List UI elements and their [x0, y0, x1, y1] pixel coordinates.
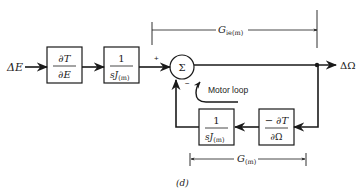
block-inv-sJ-forward: 1 sJ(m)	[104, 47, 139, 83]
bracket-bottom: G(m)	[190, 153, 306, 166]
input-label: ΔE	[6, 61, 23, 74]
minus-sign: −	[185, 79, 190, 88]
block-neg-dT-dOmega-denominator: ∂Ω	[270, 132, 282, 142]
svg-text:sJ(m): sJ(m)	[205, 132, 225, 144]
summing-junction: Σ	[170, 55, 194, 79]
figure-caption: (d)	[176, 178, 189, 188]
svg-text:sJ(m): sJ(m)	[110, 70, 130, 82]
sigma-symbol: Σ	[178, 62, 185, 73]
block-inv-sJ-forward-den-sub: (m)	[118, 74, 130, 82]
bracket-top-sub: ie(m)	[226, 29, 244, 37]
motor-loop-label: Motor loop	[208, 85, 248, 95]
block-neg-dT-dOmega: − ∂T ∂Ω	[259, 109, 294, 145]
svg-text:Gie(m): Gie(m)	[218, 24, 244, 37]
block-inv-sJ-forward-numerator: 1	[118, 53, 124, 64]
block-dT-dE-denominator: ∂E	[58, 69, 71, 80]
feedback-line-right	[294, 65, 318, 127]
bracket-bottom-sub: (m)	[245, 158, 257, 166]
svg-text:G(m): G(m)	[237, 153, 257, 166]
block-diagram: ΔE ∂T ∂E 1 sJ(m) + Σ − ΔΩ Gie(m)	[0, 0, 364, 196]
block-inv-sJ-feedback: 1 sJ(m)	[199, 109, 234, 145]
block-dT-dE: ∂T ∂E	[47, 47, 82, 83]
block-inv-sJ-feedback-den-sub: (m)	[213, 136, 225, 144]
output-label: ΔΩ	[340, 60, 356, 71]
bracket-top: Gie(m)	[152, 10, 317, 48]
block-inv-sJ-feedback-numerator: 1	[213, 115, 219, 126]
block-dT-dE-numerator: ∂T	[59, 53, 72, 64]
bracket-bottom-main: G	[237, 153, 245, 164]
block-neg-dT-dOmega-numerator: − ∂T	[265, 115, 290, 126]
plus-sign: +	[154, 54, 159, 63]
bracket-top-main: G	[218, 24, 226, 35]
